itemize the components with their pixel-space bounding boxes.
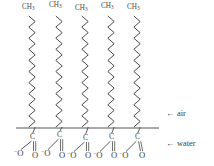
- hydrocarbon-chains: [29, 16, 140, 127]
- tail-label-ch3-3: CH3: [75, 5, 88, 12]
- phase-label-air: ← air: [166, 110, 186, 118]
- head-carbon-5: C: [135, 133, 140, 141]
- head-oxygen-anion-2: −O: [41, 149, 50, 158]
- head-carbon-4: C: [109, 133, 114, 141]
- arrow-left-icon-air: ←: [166, 109, 175, 118]
- head-oxygen-anion-3: −O: [67, 151, 76, 160]
- carboxylate-bonds: [21, 127, 143, 152]
- hydrocarbon-chain-1: [29, 16, 35, 127]
- head-oxygen-carbonyl-4: O: [111, 151, 117, 160]
- hydrocarbon-chain-3: [82, 16, 88, 127]
- figure-canvas: CH3 CH3 CH3 CH3 CH3 C C C C C −O O −O O …: [0, 0, 214, 166]
- tail-label-ch3-4: CH3: [101, 3, 114, 10]
- phase-label-air-text: air: [177, 109, 186, 118]
- head-oxygen-carbonyl-1: O: [32, 151, 38, 160]
- head-oxygen-carbonyl-5: O: [139, 151, 145, 160]
- head-oxygen-anion-4: −O: [93, 151, 102, 160]
- head-oxygen-anion-1: −O: [14, 149, 23, 158]
- hydrocarbon-chain-5: [134, 16, 140, 127]
- hydrocarbon-chain-2: [56, 16, 62, 127]
- head-carbon-1: C: [30, 133, 35, 141]
- phase-label-water-text: water: [177, 139, 196, 148]
- head-carbon-3: C: [83, 134, 88, 142]
- head-oxygen-carbonyl-3: O: [85, 151, 91, 160]
- tail-label-ch3-2: CH3: [49, 2, 62, 9]
- head-oxygen-carbonyl-2: O: [59, 151, 65, 160]
- phase-label-water: ← water: [166, 140, 196, 148]
- head-oxygen-anion-5: −O: [119, 151, 128, 160]
- hydrocarbon-chain-4: [108, 16, 114, 127]
- tail-label-ch3-5: CH3: [127, 4, 140, 11]
- arrow-left-icon-water: ←: [166, 139, 175, 148]
- tail-label-ch3-1: CH3: [22, 4, 35, 11]
- head-carbon-2: C: [57, 131, 62, 139]
